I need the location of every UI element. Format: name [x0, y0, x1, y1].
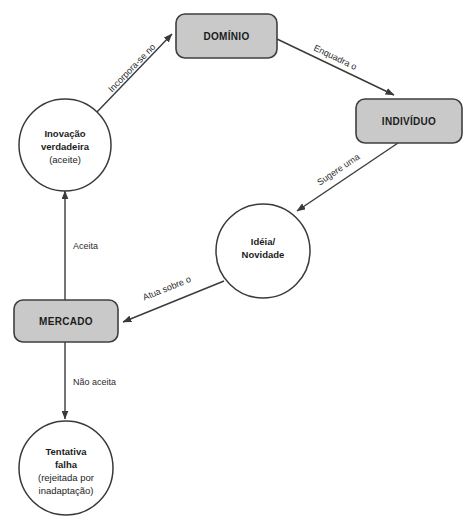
node-tentativa-falha[interactable]: Tentativa falha (rejeitada por inadaptaç… — [19, 421, 113, 515]
edge-atua-sobre-o: Atua sobre o — [123, 274, 224, 322]
diagram-svg: Incorpora-se no Enquadra o Sugere uma At… — [0, 0, 467, 531]
node-tentativa-falha-label-line3: (rejeitada por — [38, 472, 94, 483]
node-ideia[interactable]: Idéia/ Novidade — [216, 204, 310, 298]
node-ideia-label-line2: Novidade — [242, 249, 285, 260]
edge-line-enquadra-o — [277, 39, 394, 95]
node-inovacao-label-line3: (aceite) — [49, 154, 81, 165]
node-inovacao-label-line2: verdadeira — [41, 141, 90, 152]
node-dominio-label: DOMÍNIO — [204, 30, 250, 42]
edge-sugere-uma: Sugere uma — [297, 143, 398, 211]
node-tentativa-falha-label-line4: inadaptação) — [39, 485, 94, 496]
node-individuo[interactable]: INDIVÍDUO — [356, 99, 462, 143]
diagram-canvas: Incorpora-se no Enquadra o Sugere uma At… — [0, 0, 467, 531]
edge-label-sugere-uma: Sugere uma — [315, 152, 361, 188]
edge-enquadra-o: Enquadra o — [277, 39, 394, 95]
edge-line-incorpora-se-no — [96, 34, 172, 113]
edge-label-aceita: Aceita — [73, 241, 98, 251]
edge-line-sugere-uma — [297, 143, 398, 211]
node-ideia-label-line1: Idéia/ — [251, 236, 276, 247]
node-mercado-label: MERCADO — [39, 316, 93, 327]
node-tentativa-falha-label-line1: Tentativa — [45, 446, 87, 457]
node-individuo-label: INDIVÍDUO — [382, 115, 436, 127]
edge-label-atua-sobre-o: Atua sobre o — [141, 274, 192, 302]
node-inovacao-label-line1: Inovação — [44, 128, 85, 139]
edge-aceita: Aceita — [65, 191, 98, 300]
edge-nao-aceita: Não aceita — [65, 342, 116, 419]
node-dominio[interactable]: DOMÍNIO — [176, 14, 277, 58]
node-mercado[interactable]: MERCADO — [14, 300, 118, 342]
edge-label-incorpora-se-no: Incorpora-se no — [106, 42, 157, 94]
node-inovacao[interactable]: Inovação verdadeira (aceite) — [19, 99, 111, 191]
node-tentativa-falha-label-line2: falha — [55, 459, 78, 470]
edge-label-nao-aceita: Não aceita — [73, 377, 116, 387]
edge-incorpora-se-no: Incorpora-se no — [96, 34, 172, 113]
